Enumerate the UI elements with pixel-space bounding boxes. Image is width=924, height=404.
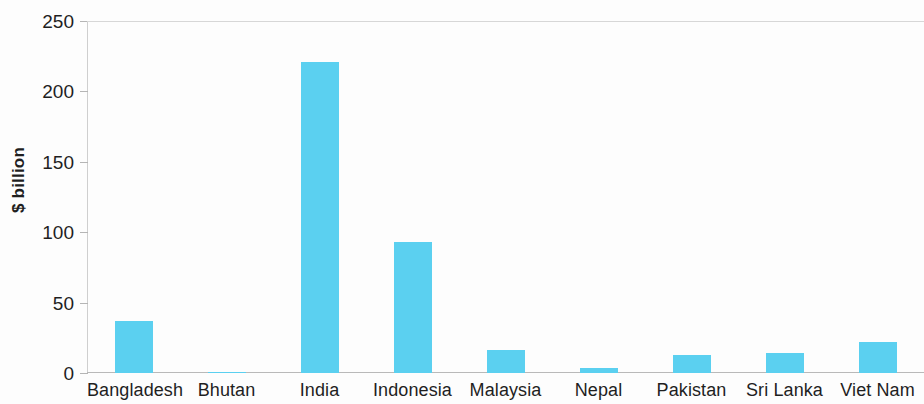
- gridline-top: [87, 21, 924, 22]
- x-axis-category-label: Sri Lanka: [738, 378, 831, 402]
- y-axis-tick-label: 50: [0, 293, 74, 312]
- x-axis-category-labels: BangladeshBhutanIndiaIndonesiaMalaysiaNe…: [87, 378, 924, 404]
- bar[interactable]: [115, 321, 153, 373]
- y-axis-title: $ billion: [2, 0, 36, 404]
- x-axis-category-label: Viet Nam: [831, 378, 924, 402]
- plot-area: [87, 21, 924, 373]
- bar[interactable]: [301, 62, 339, 373]
- bar[interactable]: [208, 372, 246, 373]
- x-axis-category-label: Bhutan: [180, 378, 273, 402]
- bar[interactable]: [487, 350, 525, 373]
- y-axis-tick-label: 100: [0, 223, 74, 242]
- x-axis-category-label: Malaysia: [459, 378, 552, 402]
- y-axis-tick-label: 200: [0, 82, 74, 101]
- y-axis-tick-label: 150: [0, 152, 74, 171]
- bar-chart: $ billion 050100150200250 BangladeshBhut…: [0, 0, 924, 404]
- bar[interactable]: [859, 342, 897, 373]
- y-axis-tick-label: 0: [0, 364, 74, 383]
- y-axis-tick-mark: [80, 373, 88, 374]
- x-axis-category-label: Nepal: [552, 378, 645, 402]
- x-axis-category-label: Bangladesh: [87, 378, 180, 402]
- x-axis-category-label: Pakistan: [645, 378, 738, 402]
- bar[interactable]: [394, 242, 432, 373]
- bar[interactable]: [766, 353, 804, 373]
- x-axis-category-label: India: [273, 378, 366, 402]
- bar[interactable]: [673, 355, 711, 373]
- bar[interactable]: [580, 368, 618, 373]
- x-axis-category-label: Indonesia: [366, 378, 459, 402]
- y-axis-tick-label: 250: [0, 12, 74, 31]
